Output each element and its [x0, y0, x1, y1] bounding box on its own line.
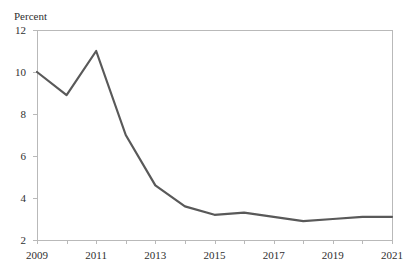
cropped-title-remnant	[133, 0, 293, 2]
x-tick-label: 2015	[204, 249, 226, 261]
y-tick-label: 4	[21, 193, 27, 204]
y-tick-label: 6	[21, 151, 27, 162]
line-chart: Percent 24681012 20092011201320152017201…	[0, 0, 406, 279]
plot-area: 24681012 2009201120132015201720192021	[37, 30, 392, 240]
y-tick-label: 2	[21, 235, 27, 246]
y-tick-label: 8	[21, 109, 27, 120]
y-tick-label: 12	[15, 25, 26, 36]
x-tick-label: 2021	[381, 249, 403, 261]
y-axis-title: Percent	[14, 10, 47, 22]
x-tick-label: 2017	[263, 249, 285, 261]
x-tick-label: 2013	[144, 249, 166, 261]
x-tick-label: 2009	[26, 249, 48, 261]
y-tick-label: 10	[15, 67, 26, 78]
x-tick	[392, 240, 393, 244]
right-axis-line	[392, 30, 393, 241]
x-tick-label: 2011	[85, 249, 107, 261]
x-tick-label: 2019	[322, 249, 344, 261]
series-line-percent	[37, 30, 392, 241]
